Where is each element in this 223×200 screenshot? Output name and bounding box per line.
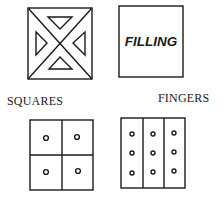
dot-icon <box>130 132 134 136</box>
dot-icon <box>75 135 80 140</box>
cross-pattern-panel <box>28 8 92 79</box>
fingers-label: FINGERS <box>158 91 209 106</box>
dot-icon <box>76 169 81 174</box>
triangle-bottom-icon <box>49 57 72 69</box>
dot-icon <box>172 169 176 173</box>
filling-panel: FILLING <box>119 6 183 77</box>
dot-icon <box>151 151 155 155</box>
dot-icon <box>44 136 49 141</box>
squares-label: SQUARES <box>7 94 63 109</box>
triangle-left-icon <box>36 32 47 55</box>
dot-icon <box>44 170 49 175</box>
dot-icon <box>172 150 176 154</box>
dot-icon <box>151 132 155 136</box>
dot-icon <box>130 151 134 155</box>
dot-icon <box>172 131 176 135</box>
filling-label: FILLING <box>125 34 178 49</box>
dot-icon <box>151 170 155 174</box>
triangle-right-icon <box>73 32 85 55</box>
triangle-top-icon <box>48 17 72 29</box>
dot-icon <box>130 171 134 175</box>
fingers-panel <box>121 118 185 188</box>
squares-panel <box>30 120 93 190</box>
